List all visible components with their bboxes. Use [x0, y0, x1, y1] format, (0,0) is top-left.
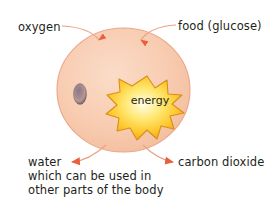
nucleus: [74, 84, 87, 105]
label-carbon-dioxide: carbon dioxide: [178, 156, 264, 170]
label-water: water: [28, 156, 61, 170]
water-usage-note-line-1: which can be used in: [28, 170, 164, 184]
label-food-glucose: food (glucose): [178, 20, 262, 34]
water-usage-note: which can be used in other parts of the …: [28, 170, 164, 197]
diagram-canvas: oxygen food (glucose) water carbon dioxi…: [0, 0, 269, 205]
water-usage-note-line-2: other parts of the body: [28, 184, 164, 198]
label-energy: energy: [126, 94, 174, 107]
label-oxygen: oxygen: [18, 21, 61, 35]
